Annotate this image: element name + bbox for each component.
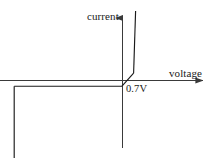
voltage-axis-label: voltage — [169, 68, 202, 79]
diode-iv-characteristic-figure: current voltage 0.7V — [0, 0, 215, 158]
current-axis-label: current — [87, 11, 119, 22]
forward-conduction-segment — [134, 11, 136, 73]
diode-iv-curve — [14, 11, 135, 158]
forward-voltage-marker-label: 0.7V — [126, 84, 147, 95]
figure-canvas — [0, 0, 215, 158]
